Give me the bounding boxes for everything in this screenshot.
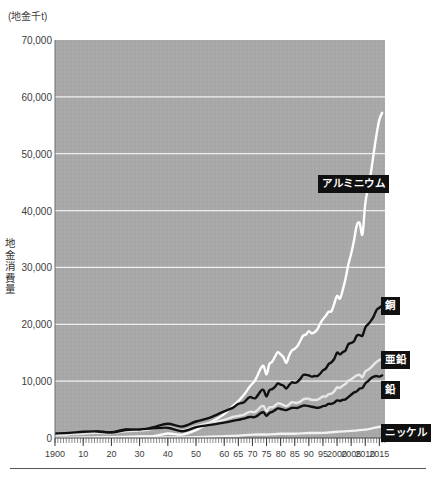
x-tick-label: 1900 [45,449,65,459]
y-tick-label: 0 [2,433,52,444]
x-tick-label: 20 [106,449,116,459]
x-tick-label: 2015 [369,449,389,459]
y-tick-label: 60,000 [2,91,52,102]
series-label-亜鉛: 亜鉛 [381,351,410,369]
series-label-銅: 銅 [381,297,400,315]
y-tick-label: 70,000 [2,35,52,46]
x-tick-label: 85 [290,449,300,459]
x-tick-label: 50 [191,449,201,459]
series-label-鉛: 鉛 [381,381,400,399]
series-label-ニッケル: ニッケル [381,424,431,442]
x-tick-label: 75 [262,449,272,459]
bottom-divider [10,468,426,469]
chart-plot-area [0,0,436,478]
x-tick-label: 90 [304,449,314,459]
y-tick-label: 10,000 [2,376,52,387]
x-axis-ticks: 1900102030405060657075808590952000200520… [0,449,436,467]
series-label-アルミニウム: アルミニウム [318,175,389,193]
x-tick-label: 80 [276,449,286,459]
x-tick-label: 60 [219,449,229,459]
y-tick-label: 40,000 [2,205,52,216]
plot-background [55,40,385,438]
x-tick-marks [55,438,385,446]
y-tick-label: 30,000 [2,262,52,273]
x-tick-label: 40 [163,449,173,459]
y-axis-ticks: 010,00020,00030,00040,00050,00060,00070,… [0,0,52,478]
chart-figure: (地金千t) 地金消費量 010,00020,00030,00040,00050… [0,0,436,478]
x-tick-label: 30 [135,449,145,459]
x-tick-label: 65 [233,449,243,459]
x-tick-label: 70 [247,449,257,459]
y-tick-label: 50,000 [2,148,52,159]
y-tick-label: 20,000 [2,319,52,330]
x-tick-label: 10 [78,449,88,459]
